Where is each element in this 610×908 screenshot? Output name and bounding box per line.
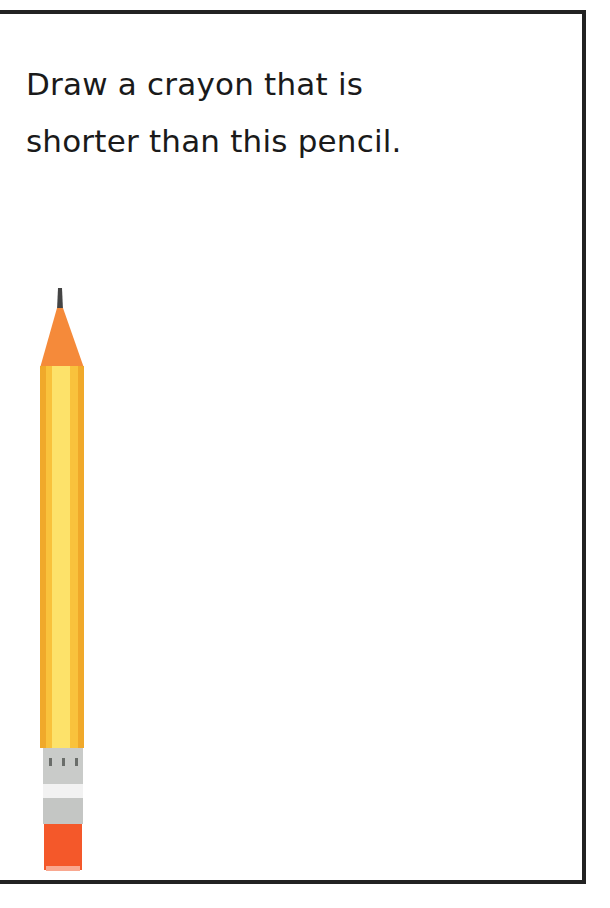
prompt-line-1: Draw a crayon that is [26,56,546,113]
pencil-icon [38,288,88,877]
prompt-line-2: shorter than this pencil. [26,113,546,170]
worksheet-prompt: Draw a crayon that is shorter than this … [26,56,546,170]
